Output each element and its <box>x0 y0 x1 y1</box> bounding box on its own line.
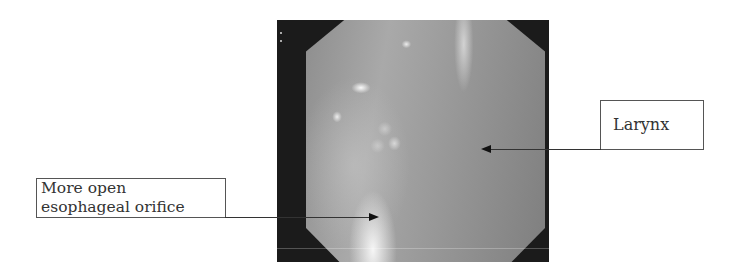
endoscopic-field-of-view <box>306 20 545 262</box>
arrow-left-icon <box>481 145 491 153</box>
leader-line-larynx <box>490 149 601 150</box>
label-larynx-text: Larynx <box>613 115 669 134</box>
figure: More open esophageal orifice Larynx <box>0 0 738 275</box>
leader-line-esophageal-orifice <box>225 217 370 218</box>
label-esophageal-orifice-line-2: esophageal orifice <box>41 198 221 217</box>
label-esophageal-orifice-line-1: More open <box>41 179 221 198</box>
arrow-right-icon <box>369 213 379 221</box>
endoscopic-image <box>277 20 549 262</box>
indicator-dots-icon <box>280 32 282 42</box>
label-larynx: Larynx <box>600 100 704 150</box>
scan-line-artifact <box>277 248 549 249</box>
label-esophageal-orifice: More open esophageal orifice <box>36 178 226 218</box>
